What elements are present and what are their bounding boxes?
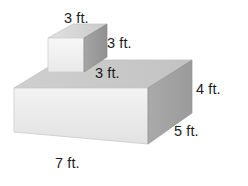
prism-front-face — [14, 88, 148, 144]
cube-front-face — [48, 38, 84, 72]
label-cube-height: 3 ft. — [95, 66, 120, 81]
label-prism-width: 7 ft. — [55, 156, 80, 171]
label-prism-height: 4 ft. — [196, 82, 221, 97]
geometry-figure: 3 ft. 3 ft. 3 ft. 4 ft. 5 ft. 7 ft. — [0, 0, 248, 186]
label-prism-depth: 5 ft. — [174, 124, 199, 139]
label-cube-top-width: 3 ft. — [64, 11, 89, 26]
label-cube-depth: 3 ft. — [107, 36, 132, 51]
